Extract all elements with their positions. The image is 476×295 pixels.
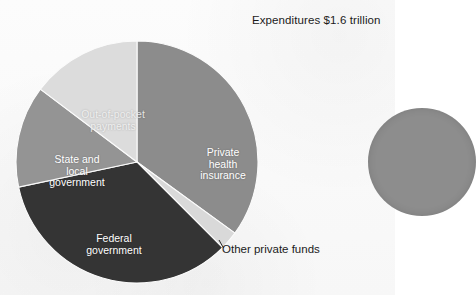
secondary-pie-chart-clipped <box>368 108 476 216</box>
slice-label-other-private-funds: Other private funds <box>222 243 320 255</box>
chart-title: Expenditures $1.6 trillion <box>252 14 402 26</box>
